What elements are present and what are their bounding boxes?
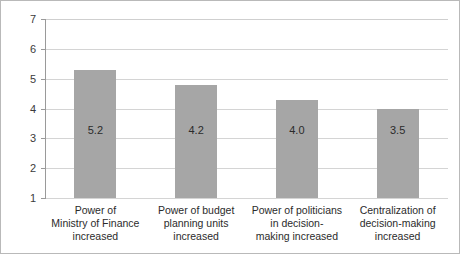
bar[interactable] xyxy=(276,100,318,198)
y-axis-tick-label: 3 xyxy=(30,133,36,144)
bar-value-label: 5.2 xyxy=(74,125,116,136)
gridline-6 xyxy=(45,49,448,50)
y-tick-mark-3 xyxy=(41,138,46,139)
bar-value-label: 4.2 xyxy=(175,125,217,136)
gridline-1 xyxy=(45,198,448,199)
y-axis-tick-label: 6 xyxy=(30,43,36,54)
category-label: Power of politicians in decision- making… xyxy=(247,204,348,243)
y-axis-tick-label: 4 xyxy=(30,103,36,114)
y-tick-mark-5 xyxy=(41,79,46,80)
bar[interactable] xyxy=(175,85,217,198)
gridline-7 xyxy=(45,19,448,20)
y-axis-tick-label: 7 xyxy=(30,14,36,25)
category-label: Power of budget planning units increased xyxy=(146,204,247,243)
category-label: Centralization of decision-making increa… xyxy=(347,204,448,243)
bar-value-label: 3.5 xyxy=(377,125,419,136)
y-tick-mark-2 xyxy=(41,168,46,169)
bar[interactable] xyxy=(377,109,419,199)
y-tick-mark-7 xyxy=(41,19,46,20)
category-label: Power of Ministry of Finance increased xyxy=(45,204,146,243)
y-tick-mark-4 xyxy=(41,109,46,110)
bar-value-label: 4.0 xyxy=(276,125,318,136)
bar-chart-figure: 76543215.24.24.03.5 Power of Ministry of… xyxy=(0,0,460,254)
y-axis-tick-label: 1 xyxy=(30,193,36,204)
y-axis-tick-label: 2 xyxy=(30,163,36,174)
y-tick-mark-6 xyxy=(41,49,46,50)
y-tick-mark-1 xyxy=(41,198,46,199)
plot-area: 76543215.24.24.03.5 xyxy=(45,19,448,198)
y-axis-tick-label: 5 xyxy=(30,73,36,84)
